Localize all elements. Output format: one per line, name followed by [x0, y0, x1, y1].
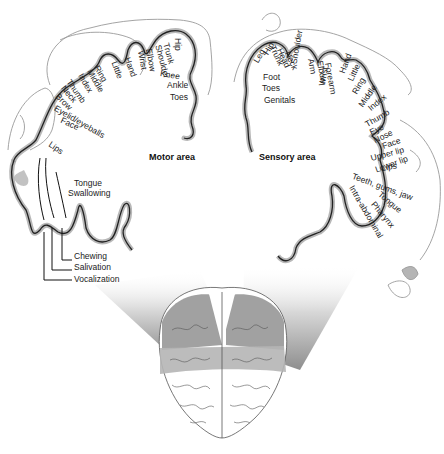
sensory-label-toes: Toes: [262, 84, 280, 93]
motor-label-swallowing: Swallowing: [68, 189, 111, 198]
sensory-area-title: Sensory area: [259, 152, 316, 162]
motor-arrows: [38, 158, 72, 280]
motor-label-chewing: Chewing: [74, 252, 107, 261]
brain-top-view: [159, 287, 287, 438]
sensory-label-genitals: Genitals: [264, 96, 295, 105]
homunculus-diagram: Motor area Hip Trunk Shoulder Elbow Wris…: [0, 0, 444, 454]
motor-label-tongue: Tongue: [74, 179, 102, 188]
motor-label-ankle: Ankle: [167, 81, 188, 90]
motor-label-salivation: Salivation: [74, 263, 111, 272]
motor-area-title: Motor area: [149, 152, 195, 162]
motor-label-wrist: Wrist: [137, 50, 149, 70]
motor-label-toes: Toes: [170, 93, 188, 102]
motor-label-hip: Hip: [174, 38, 183, 51]
sensory-label-foot: Foot: [263, 73, 280, 82]
motor-label-vocalization: Vocalization: [74, 275, 119, 284]
